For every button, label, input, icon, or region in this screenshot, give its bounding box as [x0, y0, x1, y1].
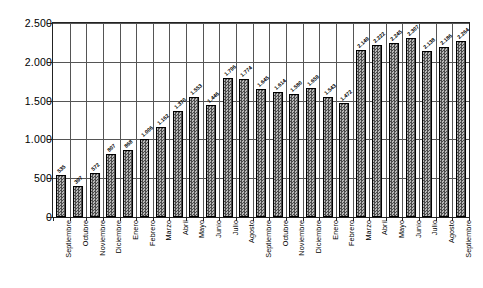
- x-axis-tick-mark: [452, 218, 453, 221]
- x-axis-tick-mark: [203, 218, 204, 221]
- x-axis-tick-label: Abril: [380, 220, 389, 235]
- bar-value-label: 397: [73, 175, 84, 185]
- bar-slot: 1.370: [169, 23, 186, 217]
- bar[interactable]: [439, 47, 449, 217]
- bar-slot: 397: [70, 23, 87, 217]
- x-axis-tick-mark: [369, 218, 370, 221]
- bar-value-label: 572: [90, 161, 101, 171]
- x-axis-tick-mark: [253, 218, 254, 221]
- y-axis-tick-label: 1.000: [8, 133, 52, 145]
- bar-slot: 1.162: [153, 23, 170, 217]
- x-axis-tick-mark: [153, 218, 154, 221]
- bar-value-label: 1.645: [256, 75, 270, 88]
- bar-slot: 2.149: [353, 23, 370, 217]
- bar-value-label: 1.006: [139, 124, 153, 137]
- bar[interactable]: [223, 78, 233, 217]
- x-axis-tick-mark: [469, 218, 470, 221]
- bar-value-label: 2.222: [372, 30, 386, 43]
- bar[interactable]: [339, 103, 349, 217]
- bar-value-label: 1.614: [273, 77, 287, 90]
- bar[interactable]: [273, 92, 283, 217]
- x-axis-tick-mark: [70, 218, 71, 221]
- bar[interactable]: [90, 173, 100, 217]
- x-axis-tick-mark: [53, 218, 54, 221]
- bar[interactable]: [289, 94, 299, 217]
- x-axis-tick-label: Julio: [231, 220, 240, 235]
- x-axis-tick-label: Abril: [181, 220, 190, 235]
- x-axis-tick-label: Diciembre: [314, 220, 323, 253]
- x-axis-tick-label: Julio: [430, 220, 439, 235]
- x-axis-tick-mark: [419, 218, 420, 221]
- bar-slot: 1.614: [269, 23, 286, 217]
- y-axis-tick-label: 500: [8, 172, 52, 184]
- bar-value-label: 2.307: [406, 23, 420, 36]
- x-axis-tick-label: Marzo: [364, 220, 373, 240]
- x-axis-tick-label: Junio: [214, 220, 223, 238]
- bar-slot: 1.580: [286, 23, 303, 217]
- bar[interactable]: [323, 97, 333, 217]
- bar-slot: 2.222: [369, 23, 386, 217]
- bar[interactable]: [256, 89, 266, 217]
- bar[interactable]: [422, 51, 432, 217]
- bar[interactable]: [140, 139, 150, 217]
- x-axis-tick-label: Junio: [414, 220, 423, 238]
- x-axis-tick-label: Diciembre: [114, 220, 123, 253]
- y-axis-tick-label: 2.000: [8, 56, 52, 68]
- bar-value-label: 1.659: [306, 74, 320, 87]
- bar-value-label: 2.186: [439, 33, 453, 46]
- bar-value-label: 2.149: [356, 36, 370, 49]
- bar-slot: 1.774: [236, 23, 253, 217]
- x-axis-tick-mark: [402, 218, 403, 221]
- bar[interactable]: [73, 186, 83, 217]
- x-axis-tick-label: Septiembre: [464, 220, 473, 258]
- x-axis-tick-label: Febrero: [148, 220, 157, 246]
- bar[interactable]: [372, 45, 382, 217]
- x-axis-tick-label: Enero: [331, 220, 340, 240]
- bar-value-label: 1.553: [189, 82, 203, 95]
- bar-slot: 2.307: [402, 23, 419, 217]
- bar[interactable]: [239, 79, 249, 217]
- bar-value-label: 1.774: [239, 65, 253, 78]
- y-axis-tick-label: 2.500: [8, 17, 52, 29]
- bar[interactable]: [156, 127, 166, 217]
- bar-slot: 1.543: [319, 23, 336, 217]
- bar-value-label: 868: [123, 138, 134, 148]
- x-axis-tick-mark: [186, 218, 187, 221]
- x-axis-tick-mark: [236, 218, 237, 221]
- bar-slot: 2.138: [419, 23, 436, 217]
- bar-value-label: 1.370: [173, 96, 187, 109]
- bar-slot: 1.553: [186, 23, 203, 217]
- x-axis-tick-label: Octubre: [281, 220, 290, 246]
- bar[interactable]: [106, 154, 116, 217]
- bar-slot: 1.472: [336, 23, 353, 217]
- bar[interactable]: [173, 111, 183, 217]
- x-axis-tick-mark: [269, 218, 270, 221]
- bar-slot: 2.264: [452, 23, 469, 217]
- bar[interactable]: [356, 50, 366, 217]
- x-axis-tick-mark: [169, 218, 170, 221]
- x-axis-tick-label: Noviembre: [297, 220, 306, 256]
- y-axis-tick-label: 1.500: [8, 95, 52, 107]
- x-axis-tick-mark: [86, 218, 87, 221]
- x-axis-tick-mark: [103, 218, 104, 221]
- bar-slot: 1.446: [203, 23, 220, 217]
- bar-slot: 807: [103, 23, 120, 217]
- x-axis-tick-mark: [319, 218, 320, 221]
- bar[interactable]: [406, 38, 416, 217]
- bar[interactable]: [189, 97, 199, 218]
- bar[interactable]: [306, 88, 316, 217]
- bar[interactable]: [389, 43, 399, 217]
- bar[interactable]: [206, 105, 216, 217]
- bar-value-label: 1.543: [323, 83, 337, 96]
- bar-chart: 05001.0001.5002.0002.500 535397572807868…: [0, 0, 483, 288]
- bar-value-label: 1.796: [223, 63, 237, 76]
- bar-value-label: 1.446: [206, 90, 220, 103]
- bar-slot: 572: [86, 23, 103, 217]
- bar-slot: 1.006: [136, 23, 153, 217]
- bar[interactable]: [56, 175, 66, 217]
- bar[interactable]: [123, 150, 133, 217]
- bar[interactable]: [456, 41, 466, 217]
- bar-slot: 868: [120, 23, 137, 217]
- bar-value-label: 1.162: [156, 112, 170, 125]
- x-axis-tick-mark: [436, 218, 437, 221]
